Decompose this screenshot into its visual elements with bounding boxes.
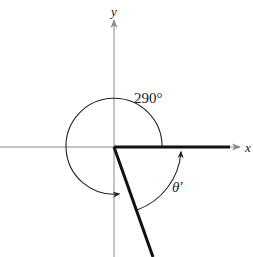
y-axis-label: y bbox=[109, 4, 117, 19]
angle-label: 290° bbox=[134, 90, 163, 106]
reference-angle-label: θ′ bbox=[172, 179, 183, 195]
x-axis-label: x bbox=[244, 140, 251, 155]
terminal-side bbox=[114, 147, 153, 257]
angle-diagram: y x 290° θ′ bbox=[0, 0, 253, 257]
